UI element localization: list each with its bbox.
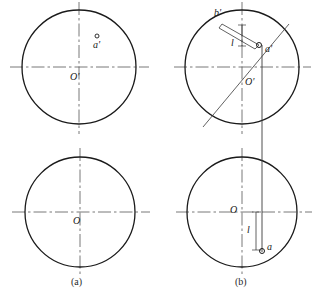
label-o-panel-a: O	[73, 216, 80, 226]
panel-b-front-view	[174, 2, 311, 134]
label-a-panel-b: a	[267, 242, 272, 252]
label-o-prime-panel-b: O'	[245, 77, 254, 87]
panel-caption-a: (a)	[71, 277, 82, 287]
label-o-panel-b: O	[230, 205, 237, 215]
dimension-bracket-l-lower	[252, 212, 261, 250]
panel-b-top-view	[176, 148, 312, 276]
label-l-lower: l	[247, 225, 250, 235]
point-marker-a-prime-panel-a	[95, 34, 99, 38]
panel-caption-b: (b)	[235, 277, 247, 287]
label-b-prime-panel-b: b'	[214, 8, 221, 18]
label-l-upper: l	[231, 38, 234, 48]
parallelogram-construction-b-front	[219, 24, 259, 49]
panel-a-top-view	[12, 148, 150, 276]
label-a-prime-panel-a: a'	[93, 40, 100, 50]
label-o-prime-panel-a: O'	[70, 72, 79, 82]
label-a-prime-panel-b: a'	[265, 44, 272, 54]
panel-a-front-view	[10, 2, 149, 134]
